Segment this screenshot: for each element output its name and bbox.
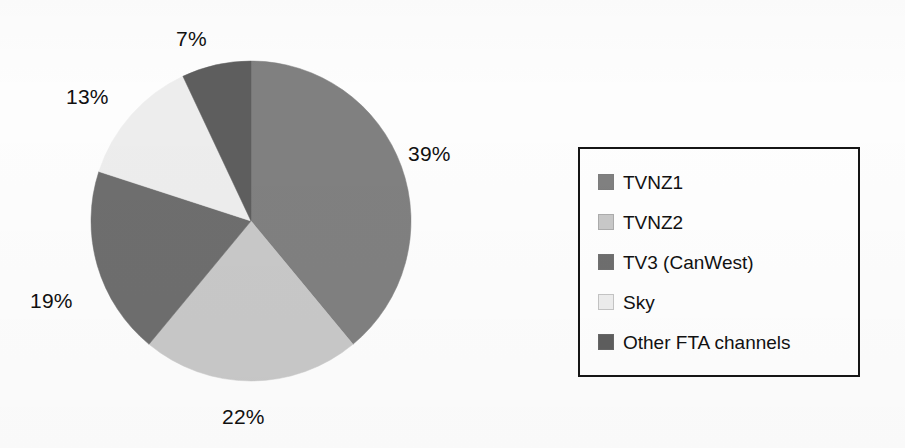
pie-value-label-tv3: 19% [30,290,73,311]
chart-page: 7% 13% 19% 22% 39% TVNZ1TVNZ2TV3 (CanWes… [0,0,905,448]
chart-legend: TVNZ1TVNZ2TV3 (CanWest)SkyOther FTA chan… [578,147,860,377]
legend-item[interactable]: Sky [598,282,852,322]
pie-value-label-other-fta: 7% [176,28,207,49]
pie-value-label-tvnz2: 22% [222,406,265,427]
legend-item-label: Other FTA channels [623,333,791,352]
pie-chart-area: 7% 13% 19% 22% 39% [0,0,520,448]
legend-color-swatch [598,294,614,310]
legend-color-swatch [598,174,614,190]
legend-color-swatch [598,254,614,270]
legend-color-swatch [598,214,614,230]
legend-color-swatch [598,334,614,350]
pie-slice-group [91,61,411,381]
pie-value-label-tvnz1: 39% [408,143,451,164]
pie-chart-svg [0,0,520,448]
legend-item-label: Sky [623,293,655,312]
legend-item[interactable]: TVNZ2 [598,202,852,242]
legend-item[interactable]: TV3 (CanWest) [598,242,852,282]
legend-item-label: TVNZ2 [623,213,683,232]
legend-item-label: TVNZ1 [623,173,683,192]
legend-item[interactable]: Other FTA channels [598,322,852,362]
pie-value-label-sky: 13% [66,86,109,107]
legend-item-list: TVNZ1TVNZ2TV3 (CanWest)SkyOther FTA chan… [598,162,852,362]
legend-item[interactable]: TVNZ1 [598,162,852,202]
legend-item-label: TV3 (CanWest) [623,253,754,272]
